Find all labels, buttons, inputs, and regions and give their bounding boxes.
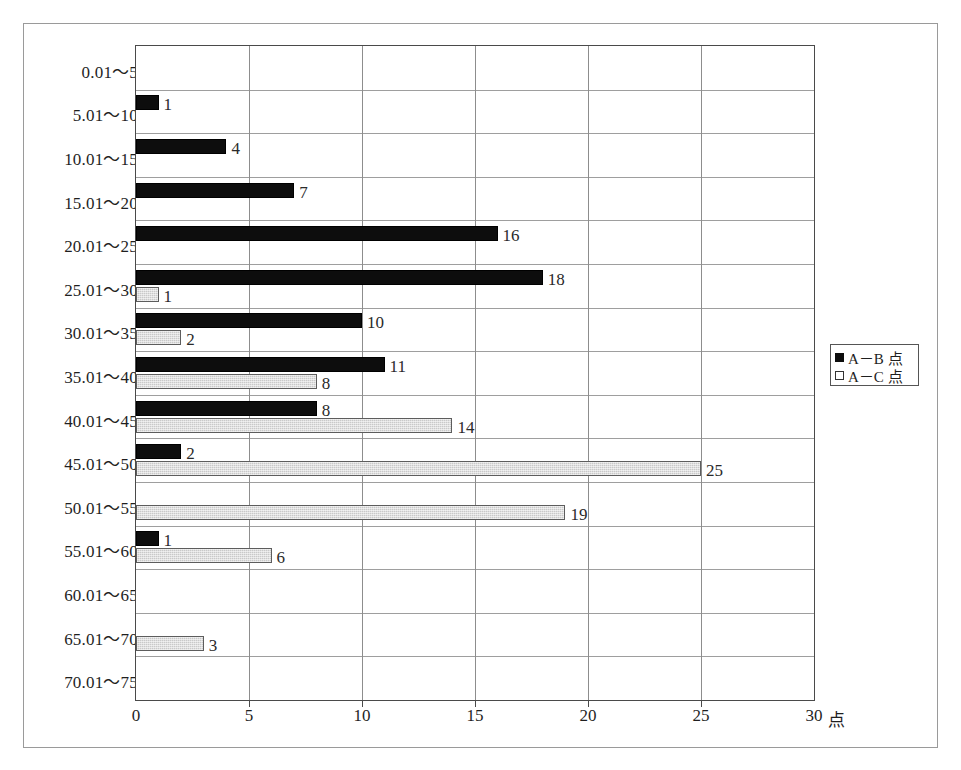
bar-value-label: 16 (503, 227, 520, 244)
x-axis-tick-label: 30 (806, 706, 823, 726)
y-axis-label: 60.01～65 (64, 581, 138, 606)
bar-value-label: 1 (164, 96, 173, 113)
bar-ab (136, 95, 159, 110)
y-axis-label: 70.01～75 (64, 668, 138, 693)
bar-ac (136, 461, 701, 476)
bar-value-label: 2 (186, 445, 195, 462)
bar-value-label: 4 (231, 140, 240, 157)
x-axis-tick-label: 15 (467, 706, 484, 726)
x-axis-tick-mark (588, 701, 589, 707)
y-axis-label: 0.01～5 (82, 58, 138, 83)
hollow-square-icon (835, 371, 844, 380)
plot-inner: 1471618110211881422519163 (136, 46, 814, 700)
bar-value-label: 8 (322, 375, 331, 392)
filled-square-icon (835, 353, 844, 362)
bar-ac (136, 418, 452, 433)
legend-entry-ac: A－C 点 (835, 366, 914, 384)
y-axis-label: 20.01～25 (64, 232, 138, 257)
x-axis-tick-mark (249, 701, 250, 707)
bar-ab (136, 226, 498, 241)
bar-value-label: 10 (367, 314, 384, 331)
x-axis-tick-mark (475, 701, 476, 707)
x-axis-tick-label: 25 (693, 706, 710, 726)
bar-value-label: 6 (277, 549, 286, 566)
y-axis-label: 50.01～55 (64, 494, 138, 519)
bar-ab (136, 444, 181, 459)
x-axis-tick-label: 10 (354, 706, 371, 726)
bar-value-label: 25 (706, 462, 723, 479)
chart-legend: A－B 点 A－C 点 (830, 344, 919, 386)
bar-value-label: 14 (457, 419, 474, 436)
legend-entry-ab: A－B 点 (835, 348, 914, 366)
x-axis-tick-label: 5 (245, 706, 254, 726)
y-axis-label: 10.01～15 (64, 145, 138, 170)
bar-ab (136, 183, 294, 198)
y-axis-label: 5.01～10 (73, 101, 138, 126)
x-axis-tick-mark (701, 701, 702, 707)
plot-area: 1471618110211881422519163 (135, 45, 815, 701)
bar-value-label: 2 (186, 331, 195, 348)
bar-ab (136, 270, 543, 285)
x-axis-tick-label: 0 (132, 706, 141, 726)
bar-value-label: 1 (164, 288, 173, 305)
vertical-gridline (588, 46, 589, 700)
bar-ab (136, 531, 159, 546)
bar-value-label: 18 (548, 271, 565, 288)
x-axis-tick-label: 20 (580, 706, 597, 726)
bar-ac (136, 636, 204, 651)
chart-page: 0.01～55.01～1010.01～1515.01～2020.01～2525.… (0, 0, 961, 770)
vertical-gridline (249, 46, 250, 700)
bar-value-label: 19 (570, 506, 587, 523)
bar-value-label: 7 (299, 184, 308, 201)
bar-ab (136, 139, 226, 154)
y-axis-label: 35.01～40 (64, 363, 138, 388)
y-axis-label: 30.01～35 (64, 319, 138, 344)
bar-ac (136, 330, 181, 345)
y-axis-label: 40.01～45 (64, 407, 138, 432)
vertical-gridline (475, 46, 476, 700)
bar-ac (136, 505, 565, 520)
y-axis-label: 45.01～50 (64, 450, 138, 475)
bar-value-label: 11 (390, 358, 406, 375)
bar-value-label: 3 (209, 637, 218, 654)
bar-ab (136, 313, 362, 328)
vertical-gridline (701, 46, 702, 700)
y-axis-label: 65.01～70 (64, 625, 138, 650)
y-axis-label: 25.01～30 (64, 276, 138, 301)
y-axis-label: 55.01～60 (64, 537, 138, 562)
x-axis-unit-label: 点 (828, 706, 845, 731)
bar-value-label: 1 (164, 532, 173, 549)
vertical-gridline (362, 46, 363, 700)
bar-ab (136, 357, 385, 372)
bar-ab (136, 401, 317, 416)
y-axis-label: 15.01～20 (64, 189, 138, 214)
bar-ac (136, 287, 159, 302)
x-axis-tick-mark (362, 701, 363, 707)
bar-ac (136, 374, 317, 389)
bar-ac (136, 548, 272, 563)
bar-value-label: 8 (322, 402, 331, 419)
legend-label-ac: A－C 点 (848, 365, 903, 386)
